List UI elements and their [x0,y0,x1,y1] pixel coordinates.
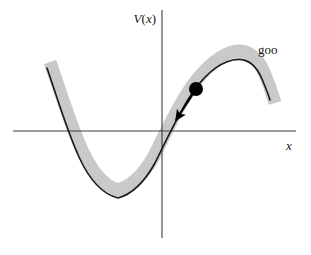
potential-energy-figure: V(x) x goo [0,0,311,255]
y-axis-label: V(x) [134,11,156,26]
y-axis-label-paren-close: ) [152,11,156,26]
x-axis-label: x [285,138,292,153]
goo-label: goo [258,42,278,57]
ball [189,82,203,96]
figure-canvas: V(x) x goo [0,0,311,255]
axes-group [13,10,296,238]
potential-curve [47,59,270,198]
